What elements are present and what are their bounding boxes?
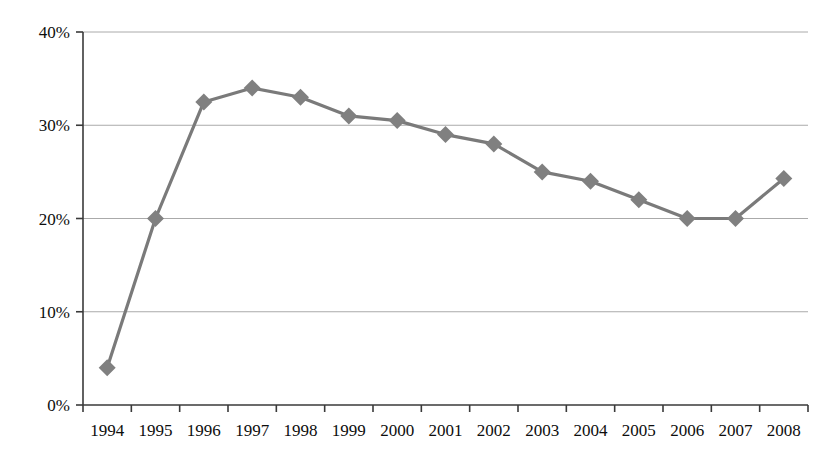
data-point-2006	[679, 210, 696, 227]
gridlines	[83, 32, 808, 312]
y-axis-label-10%: 10%	[39, 303, 70, 322]
y-axis-label-40%: 40%	[39, 23, 70, 42]
y-axis-label-20%: 20%	[39, 210, 70, 229]
y-axis	[76, 32, 83, 405]
data-point-1994	[99, 359, 116, 376]
data-point-1996	[195, 93, 212, 110]
data-point-2005	[630, 191, 647, 208]
x-axis-label-2000: 2000	[380, 421, 414, 440]
x-axis-label-2008: 2008	[767, 421, 801, 440]
x-axis-label-1994: 1994	[90, 421, 125, 440]
data-series	[99, 79, 793, 376]
x-axis	[83, 405, 808, 412]
y-axis-label-30%: 30%	[39, 116, 70, 135]
data-point-1995	[147, 210, 164, 227]
data-point-2003	[534, 163, 551, 180]
data-point-2002	[485, 135, 502, 152]
data-point-1999	[340, 107, 357, 124]
x-axis-label-2002: 2002	[477, 421, 511, 440]
x-axis-label-2003: 2003	[525, 421, 559, 440]
x-axis-label-1999: 1999	[332, 421, 366, 440]
y-axis-tick-labels: 0%10%20%30%40%	[39, 23, 70, 415]
line-chart: 0%10%20%30%40% 1994199519961997199819992…	[0, 0, 837, 463]
x-axis-label-2004: 2004	[574, 421, 609, 440]
x-axis-label-1996: 1996	[187, 421, 221, 440]
x-axis-label-1995: 1995	[139, 421, 173, 440]
data-point-2004	[582, 173, 599, 190]
x-axis-label-2006: 2006	[670, 421, 704, 440]
data-point-1997	[244, 79, 261, 96]
data-point-1998	[292, 89, 309, 106]
x-axis-label-2005: 2005	[622, 421, 656, 440]
x-axis-label-1998: 1998	[284, 421, 318, 440]
x-axis-label-2007: 2007	[719, 421, 754, 440]
chart-canvas: 0%10%20%30%40% 1994199519961997199819992…	[0, 0, 837, 463]
y-axis-label-0%: 0%	[47, 396, 70, 415]
x-axis-tick-labels: 1994199519961997199819992000200120022003…	[90, 421, 801, 440]
x-axis-label-1997: 1997	[235, 421, 270, 440]
x-axis-label-2001: 2001	[429, 421, 463, 440]
data-point-2001	[437, 126, 454, 143]
data-point-2000	[389, 112, 406, 129]
